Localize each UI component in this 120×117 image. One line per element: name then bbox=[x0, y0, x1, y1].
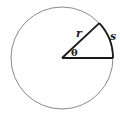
circle-diagram: r s θ bbox=[0, 0, 120, 117]
label-r: r bbox=[76, 27, 83, 40]
label-s: s bbox=[110, 30, 116, 43]
label-theta: θ bbox=[71, 47, 78, 58]
